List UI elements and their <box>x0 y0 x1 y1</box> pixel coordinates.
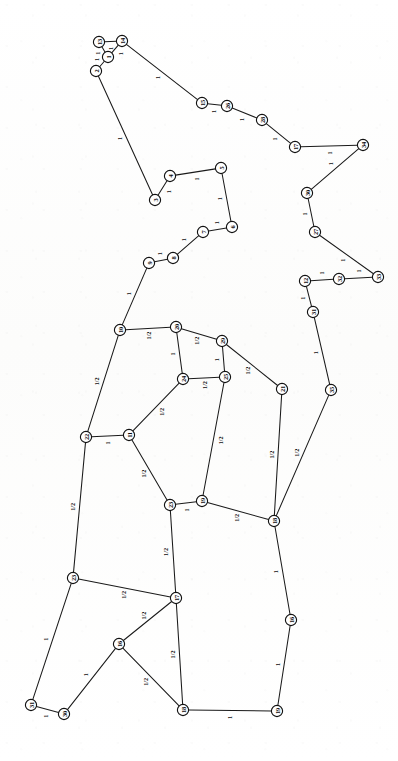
graph-node[interactable]: 21 <box>276 383 287 394</box>
graph-node[interactable]: 1 <box>102 51 113 62</box>
graph-node[interactable]: 28 <box>256 114 267 125</box>
edge-weight-label: 1/2 <box>193 337 200 345</box>
node-label: 23 <box>70 575 77 581</box>
graph-node[interactable]: 6 <box>226 221 237 232</box>
edge-labels-layer: 1111111111111111111111111/21/21/2111/21/… <box>42 47 362 719</box>
graph-node[interactable]: 35 <box>325 384 336 395</box>
node-label: 11 <box>126 432 133 438</box>
graph-node[interactable]: 34 <box>357 139 368 150</box>
edge-weight-label: 1/2 <box>163 548 170 556</box>
graph-edge <box>208 104 222 106</box>
graph-edge <box>102 47 105 52</box>
graph-edge <box>314 317 329 384</box>
node-label: 1 <box>105 56 112 59</box>
node-label: 28 <box>259 117 266 123</box>
edge-weight-label: 1 <box>42 638 49 641</box>
graph-node[interactable]: 14 <box>116 35 127 46</box>
node-label: 19 <box>199 498 206 504</box>
graph-edge <box>222 174 231 222</box>
edge-weight-label: 1/2 <box>69 503 76 511</box>
edge-weight-label: 1 <box>116 137 123 140</box>
graph-edge <box>176 604 182 705</box>
graph-edge <box>232 108 257 118</box>
node-label: 12 <box>302 278 309 284</box>
graph-node[interactable]: 12 <box>299 275 310 286</box>
graph-edge <box>226 345 277 386</box>
graph-node[interactable]: 33 <box>372 271 383 282</box>
edge-weight-label: 1 <box>107 47 114 50</box>
graph-node[interactable]: 31 <box>25 699 36 710</box>
graph-edge <box>311 279 334 280</box>
graph-edge <box>126 44 197 99</box>
graph-node[interactable]: 17 <box>289 141 300 152</box>
edge-weight-label: 1 <box>326 151 333 154</box>
edge-weight-label: 1 <box>216 197 223 200</box>
edge-weight-label: 1/2 <box>244 367 251 375</box>
edge-weight-label: 1/2 <box>120 591 127 599</box>
node-label: 34 <box>360 141 367 148</box>
node-label: 21 <box>279 386 286 392</box>
graph-node[interactable]: 29 <box>216 335 227 346</box>
edge-weight-label: 1 <box>156 252 163 255</box>
edges-layer <box>33 41 374 712</box>
edge-weight-label: 1 <box>165 190 172 193</box>
node-label: 23 <box>167 502 174 508</box>
graph-edge <box>122 268 147 325</box>
edge-weight-label: 1 <box>271 137 278 140</box>
graph-node[interactable]: 19 <box>271 705 282 716</box>
graph-node[interactable]: 9 <box>143 257 154 268</box>
graph-edge <box>308 198 314 226</box>
edge-weight-label: 1 <box>327 162 334 165</box>
graph-node[interactable]: 17 <box>170 592 181 603</box>
graph-node[interactable]: 5 <box>215 162 226 173</box>
graph-node[interactable]: 24 <box>177 373 188 384</box>
graph-node[interactable]: 15 <box>196 97 207 108</box>
graph-edge <box>67 648 115 709</box>
graph-node[interactable]: 27 <box>309 226 320 237</box>
graph-node[interactable]: 30 <box>301 187 312 198</box>
graph-node[interactable]: 3 <box>149 194 160 205</box>
graph-node[interactable]: 18 <box>177 704 188 715</box>
graph-node[interactable]: 20 <box>170 321 181 332</box>
graph-edge <box>176 169 216 175</box>
graph-edge <box>105 41 117 42</box>
edge-weight-label: 1 <box>183 508 190 511</box>
graph-node[interactable]: 22 <box>80 431 91 442</box>
graph-node[interactable]: 30 <box>58 708 69 719</box>
graph-node[interactable]: 32 <box>333 273 344 284</box>
graph-node[interactable]: 16 <box>285 614 296 625</box>
graph-node[interactable]: 2 <box>90 65 101 76</box>
graph-node[interactable]: 16 <box>113 638 124 649</box>
node-label: 18 <box>271 518 278 524</box>
graph-node[interactable]: 31 <box>307 306 318 317</box>
graph-node[interactable]: 13 <box>93 36 104 47</box>
graph-node[interactable]: 10 <box>114 324 125 335</box>
graph-node[interactable]: 23 <box>164 499 175 510</box>
graph-node[interactable]: 18 <box>268 515 279 526</box>
edge-weight-label: 1 <box>125 292 132 295</box>
node-label: 29 <box>219 338 226 344</box>
graph-node[interactable]: 19 <box>196 495 207 506</box>
node-label: 2 <box>93 70 100 73</box>
edge-weight-label: 1 <box>42 715 49 718</box>
node-label: 22 <box>83 434 90 440</box>
graph-edge <box>345 277 373 278</box>
edge-weight-label: 1 <box>93 58 100 61</box>
graph-node[interactable]: 8 <box>167 252 178 263</box>
graph-node[interactable]: 23 <box>67 572 78 583</box>
edge-weight-label: 1 <box>169 352 176 355</box>
graph-node[interactable]: 11 <box>123 429 134 440</box>
graph-node[interactable]: 4 <box>164 170 175 181</box>
graph-edge <box>189 710 272 711</box>
edge-weight-label: 1 <box>355 269 362 272</box>
graph-node[interactable]: 7 <box>197 226 208 237</box>
graph-node[interactable]: 26 <box>221 100 232 111</box>
graph-edge <box>274 395 281 516</box>
edge-weight-label: 1/2 <box>140 470 147 478</box>
graph-node[interactable]: 25 <box>219 371 230 382</box>
graph-edge <box>154 259 167 262</box>
node-label: 31 <box>310 309 317 315</box>
node-label: 20 <box>173 324 180 330</box>
node-label: 32 <box>336 276 343 282</box>
graph-edge <box>222 347 224 372</box>
